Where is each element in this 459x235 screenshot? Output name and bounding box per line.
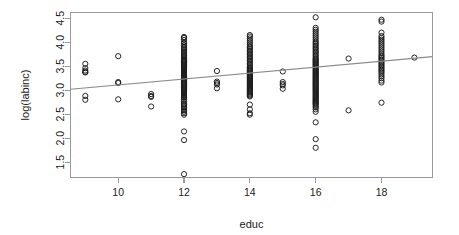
data-point <box>313 15 318 20</box>
x-tick-label: 16 <box>310 186 322 198</box>
data-point <box>83 97 88 102</box>
data-points-layer <box>83 15 417 177</box>
data-point <box>181 137 186 142</box>
y-tick-label: 4.5 <box>54 11 66 26</box>
data-point <box>346 56 351 61</box>
data-point <box>313 145 318 150</box>
data-point <box>116 54 121 59</box>
data-point <box>181 129 186 134</box>
data-point <box>346 108 351 113</box>
x-tick-label: 12 <box>178 186 190 198</box>
data-point <box>313 120 318 125</box>
y-tick-label: 2.0 <box>54 131 66 146</box>
x-tick-label: 10 <box>112 186 124 198</box>
data-point <box>116 97 121 102</box>
data-point <box>214 68 219 73</box>
y-tick-label: 4.0 <box>54 35 66 50</box>
x-tick-label: 14 <box>244 186 256 198</box>
plot-canvas: 1.52.02.53.03.54.04.51012141618educlog(l… <box>0 0 459 235</box>
x-axis-title: educ <box>240 218 264 230</box>
data-point <box>181 172 186 177</box>
x-axis: 1012141618 <box>112 178 387 198</box>
data-point <box>214 86 219 91</box>
y-tick-label: 2.5 <box>54 107 66 122</box>
data-point <box>313 137 318 142</box>
data-point <box>379 100 384 105</box>
x-tick-label: 18 <box>376 186 388 198</box>
y-tick-label: 1.5 <box>54 155 66 170</box>
y-tick-label: 3.5 <box>54 59 66 74</box>
y-tick-label: 3.0 <box>54 83 66 98</box>
scatter-plot-figure: 1.52.02.53.03.54.04.51012141618educlog(l… <box>0 0 459 235</box>
data-point <box>149 104 154 109</box>
y-axis-title: log(labinc) <box>19 70 31 121</box>
y-axis: 1.52.02.53.03.54.04.5 <box>54 11 70 170</box>
